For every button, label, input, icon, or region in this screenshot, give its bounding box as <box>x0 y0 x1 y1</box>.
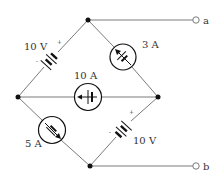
wire-top-right-2 <box>132 67 158 97</box>
wire-left-bottom-1 <box>18 97 43 121</box>
current-source-3a-label: 3 A <box>142 39 160 50</box>
current-source-5a-label: 5 A <box>25 138 43 149</box>
terminal-a: a <box>193 15 209 26</box>
current-source-10a <box>75 84 102 111</box>
node-bottom <box>88 164 93 169</box>
voltage-source-2-label: 10 V <box>133 135 157 146</box>
node-right <box>156 95 161 100</box>
battery-plate-short <box>51 53 57 58</box>
current-source-5a <box>39 117 66 144</box>
terminal-a-circle <box>193 17 199 23</box>
voltage-source-1-minus: - <box>36 57 38 64</box>
wire-left-top-1 <box>18 67 44 97</box>
wire-left-bottom-2 <box>61 140 90 166</box>
voltage-source-1-label: 10 V <box>24 41 48 52</box>
current-source-10a-label: 10 A <box>74 70 98 81</box>
wire-bottom-right-1 <box>90 137 116 166</box>
battery-plate-short <box>121 126 127 131</box>
voltage-source-2-minus: - <box>109 128 111 135</box>
node-left <box>16 95 21 100</box>
wire-bottom-right-2 <box>131 97 158 121</box>
terminal-b: b <box>193 161 210 172</box>
terminal-b-label: b <box>203 161 209 172</box>
current-source-3a <box>110 44 136 70</box>
wire-top-right-1 <box>88 20 114 47</box>
battery-plate-short <box>46 59 52 64</box>
battery-plate-short <box>116 132 122 137</box>
circuit-diagram: a b 10 V + - 3 A 10 A <box>0 0 219 183</box>
terminal-b-circle <box>193 163 199 169</box>
terminal-a-label: a <box>203 15 209 26</box>
voltage-source-2-plus: + <box>129 108 134 115</box>
node-top <box>86 18 91 23</box>
voltage-source-1-plus: + <box>57 38 62 45</box>
wire-left-top-2 <box>58 20 88 52</box>
voltage-source-2 <box>113 121 131 139</box>
